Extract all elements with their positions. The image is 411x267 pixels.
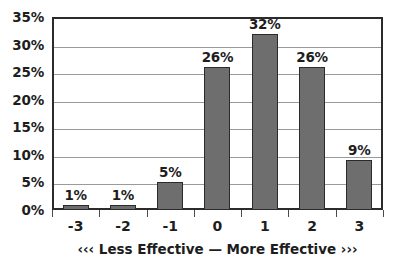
bar-value-label: 32% (249, 16, 281, 32)
y-axis: 0%5%10%15%20%25%30%35% (0, 17, 48, 210)
x-tick-mark (383, 210, 384, 217)
x-tick-label: 1 (241, 218, 288, 240)
y-tick-label: 0% (21, 202, 44, 218)
bar[interactable] (204, 67, 230, 210)
bar[interactable] (346, 160, 372, 210)
y-tick-label: 15% (12, 119, 44, 135)
x-tick-label: 3 (336, 218, 383, 240)
bars-layer: 1%1%5%26%32%26%9% (52, 17, 383, 210)
x-axis-ticks (52, 210, 383, 217)
bar[interactable] (252, 34, 278, 210)
bar[interactable] (157, 182, 183, 210)
bar-value-label: 1% (64, 187, 87, 203)
bar-slot: 1% (52, 17, 99, 210)
y-tick-label: 25% (12, 64, 44, 80)
y-tick-label: 20% (12, 92, 44, 108)
bar-value-label: 1% (112, 187, 135, 203)
bar-value-label: 5% (159, 164, 182, 180)
bar-slot: 32% (241, 17, 288, 210)
bar-slot: 1% (99, 17, 146, 210)
x-tick-mark (147, 210, 148, 217)
y-tick-label: 10% (12, 147, 44, 163)
x-tick-mark (241, 210, 242, 217)
x-tick-mark (336, 210, 337, 217)
bar-value-label: 9% (348, 142, 371, 158)
y-tick-label: 35% (12, 9, 44, 25)
x-tick-label: -2 (99, 218, 146, 240)
bar-slot: 5% (147, 17, 194, 210)
bar-slot: 26% (288, 17, 335, 210)
x-tick-label: 0 (194, 218, 241, 240)
bar-chart: 0%5%10%15%20%25%30%35% 1%1%5%26%32%26%9%… (0, 0, 411, 267)
x-tick-mark (52, 210, 53, 217)
y-tick-label: 30% (12, 37, 44, 53)
x-tick-mark (99, 210, 100, 217)
x-tick-label: 2 (288, 218, 335, 240)
bar[interactable] (299, 67, 325, 210)
x-tick-label: -3 (52, 218, 99, 240)
x-tick-label: -1 (147, 218, 194, 240)
bar-value-label: 26% (202, 49, 234, 65)
y-tick-label: 5% (21, 174, 44, 190)
bar-slot: 9% (336, 17, 383, 210)
x-tick-mark (288, 210, 289, 217)
x-axis-title: ‹‹‹ Less Effective — More Effective ››› (52, 241, 383, 257)
bar-value-label: 26% (296, 49, 328, 65)
bar-slot: 26% (194, 17, 241, 210)
x-tick-mark (194, 210, 195, 217)
x-axis-tick-labels: -3-2-10123 (52, 218, 383, 240)
